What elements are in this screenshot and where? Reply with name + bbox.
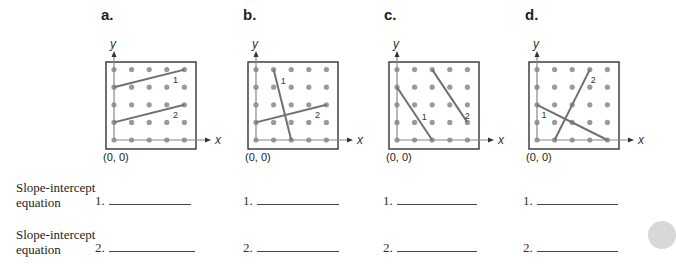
panel-d-origin-label: (0, 0) [526,151,552,163]
answer-c-2[interactable]: 2. [383,240,477,256]
grid-dot [465,67,470,72]
answer-a-1[interactable]: 1. [95,193,191,209]
grid-dot [129,120,134,125]
answer-blank[interactable] [397,250,477,252]
answer-number: 2. [383,240,393,255]
line-1-label: 1 [422,112,427,122]
y-axis-arrow-icon [395,51,400,57]
grid-dot [447,67,452,72]
grid-dot [570,67,575,72]
grid-dot [465,85,470,90]
grid-dot [164,67,169,72]
grid-dot [587,120,592,125]
grid-dot [289,102,294,107]
y-axis-arrow-icon [254,51,259,57]
y-axis-label: y [532,37,540,51]
y-axis-arrow-icon [112,51,117,57]
row-2-label-line2: equation [16,242,95,257]
grid-dot [164,120,169,125]
line-1-label: 1 [173,75,178,85]
grid-dot [129,67,134,72]
row-2-label: Slope-intercept equation [16,227,95,257]
grid-dot [182,85,187,90]
panel-a-origin-label: (0, 0) [103,151,129,163]
y-axis-arrow-icon [535,51,540,57]
x-axis-label: x [497,133,505,147]
answer-b-1[interactable]: 1. [243,193,339,209]
answer-b-2[interactable]: 2. [243,240,339,256]
x-axis-label: x [356,133,364,147]
grid-dot [605,120,610,125]
grid-dot [570,85,575,90]
answer-d-2[interactable]: 2. [523,240,618,256]
grid-dot [271,85,276,90]
grid-dot [324,85,329,90]
grid-dot [587,102,592,107]
line-2-label: 2 [591,75,596,85]
grid-dot [587,85,592,90]
grid-dot [147,102,152,107]
grid-dot [412,85,417,90]
grid-dot [430,120,435,125]
grid-dot [552,120,557,125]
grid-dot [129,85,134,90]
grid-dot [605,102,610,107]
grid-dot [147,67,152,72]
x-axis-arrow-icon [488,138,494,143]
answer-blank[interactable] [257,250,339,252]
grid-dot [552,85,557,90]
line-2-label: 2 [465,111,470,121]
grid-dot [447,85,452,90]
answer-number: 1. [243,193,253,208]
answer-blank[interactable] [537,250,618,252]
panel-c-origin-label: (0, 0) [386,151,412,163]
line-1 [537,105,607,140]
grid-dot [412,120,417,125]
grid-dot [289,120,294,125]
grid-dot [182,120,187,125]
line-1-label: 1 [281,76,286,86]
x-axis-arrow-icon [628,138,634,143]
grid-dot [465,102,470,107]
answer-number: 1. [95,193,105,208]
grid-dot [447,102,452,107]
grid-dot [306,85,311,90]
grid-dot [430,85,435,90]
grid-dot [447,120,452,125]
answer-number: 1. [523,193,533,208]
answer-blank[interactable] [109,250,195,252]
x-axis-arrow-icon [205,138,211,143]
answer-blank[interactable] [397,203,477,205]
grid-dot [306,67,311,72]
answer-number: 2. [95,240,105,255]
answer-a-2[interactable]: 2. [95,240,195,256]
grid-dot [164,102,169,107]
x-axis-label: x [214,133,222,147]
grid-dot [129,102,134,107]
grid-dot [289,67,294,72]
answer-c-1[interactable]: 1. [383,193,477,209]
answer-blank[interactable] [537,203,618,205]
answer-blank[interactable] [109,203,191,205]
grid-dot [324,67,329,72]
grid-dot [605,67,610,72]
y-axis-label: y [251,37,259,51]
grid-dot [552,67,557,72]
row-1-label-line2: equation [16,195,95,210]
grid-dot [164,85,169,90]
grid-dot [412,102,417,107]
answer-blank[interactable] [257,203,339,205]
page-edge-tab [648,221,676,249]
line-2 [432,70,467,123]
grid-dot [271,120,276,125]
grid-dot [552,102,557,107]
line-1-label: 1 [541,110,546,120]
grid-dot [324,120,329,125]
grid-dot [306,120,311,125]
answer-d-1[interactable]: 1. [523,193,618,209]
grid-dot [147,85,152,90]
x-axis-arrow-icon [347,138,353,143]
answer-number: 1. [383,193,393,208]
grid-dot [147,120,152,125]
